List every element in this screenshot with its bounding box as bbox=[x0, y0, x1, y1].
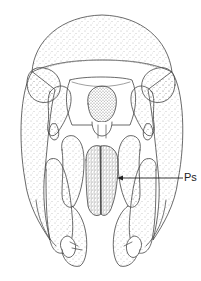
ps-label: Ps bbox=[184, 172, 197, 183]
head-dome bbox=[32, 15, 172, 72]
labrum bbox=[92, 122, 112, 136]
right-wing-pad bbox=[101, 146, 118, 216]
pupa-illustration bbox=[0, 0, 201, 281]
mouthpart-disc bbox=[88, 86, 117, 122]
left-wing-pad bbox=[86, 146, 101, 216]
